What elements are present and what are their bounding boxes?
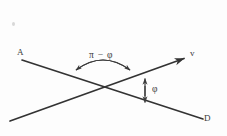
figure-canvas (0, 0, 227, 136)
label-angle-pi-minus-phi: π − φ (89, 51, 113, 61)
line-a-to-d (22, 60, 203, 119)
label-angle-phi: φ (152, 85, 158, 95)
geometry-figure: A v D π − φ φ (0, 0, 227, 136)
angle-arc-outer-left (76, 60, 130, 70)
label-point-d: D (204, 114, 211, 123)
scan-speckle (12, 22, 15, 26)
label-vector-v: v (190, 49, 195, 58)
label-point-a: A (17, 48, 24, 57)
